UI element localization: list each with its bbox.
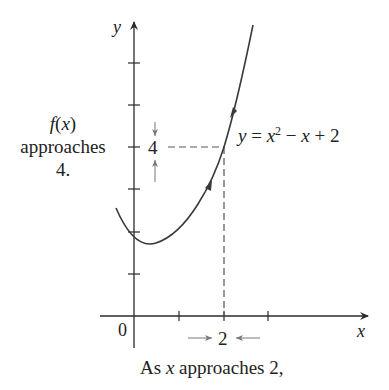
approaches-label: approaches [8, 135, 118, 158]
x-axis-label: x [357, 322, 365, 340]
graph-canvas [0, 0, 389, 390]
equation-minus: − [281, 125, 301, 146]
origin-label: 0 [118, 321, 127, 339]
y-axis-label: y [113, 18, 121, 36]
fx-approaches-annotation: f(x) approaches 4. [8, 112, 118, 181]
y-value-4-label: 4 [148, 138, 158, 157]
limit-value-label: 4. [8, 158, 118, 181]
curve-arrow-upper-icon [230, 107, 237, 118]
x-approaches-annotation: As x approaches 2, [140, 358, 284, 377]
equation-label: y = x2 − x + 2 [238, 125, 339, 145]
x-value-2-label: 2 [218, 329, 228, 348]
equation-equals: = [246, 125, 266, 146]
equation-tail: + 2 [310, 125, 340, 146]
equation-x: x [267, 125, 275, 146]
fx-label: f(x) [8, 112, 118, 135]
equation-x2: x [301, 125, 309, 146]
parabola-curve [116, 25, 253, 244]
